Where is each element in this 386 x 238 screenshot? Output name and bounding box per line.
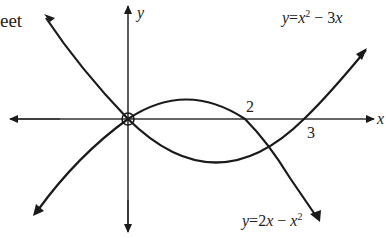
partial-text: eet <box>0 10 22 32</box>
curve-label-2x-minus-x2: y=2x − x2 <box>242 211 302 230</box>
curve-2x-minus-x2 <box>38 100 316 217</box>
x-axis-label: x <box>377 110 384 128</box>
plot-area <box>0 0 386 238</box>
curve-x2-minus-3x <box>46 18 366 163</box>
tick-label-3: 3 <box>307 124 315 142</box>
y-axis-label: y <box>137 4 144 22</box>
curve-label-x2-minus-3x: y=x2 − 3x <box>282 8 342 27</box>
tick-label-2: 2 <box>246 98 254 116</box>
